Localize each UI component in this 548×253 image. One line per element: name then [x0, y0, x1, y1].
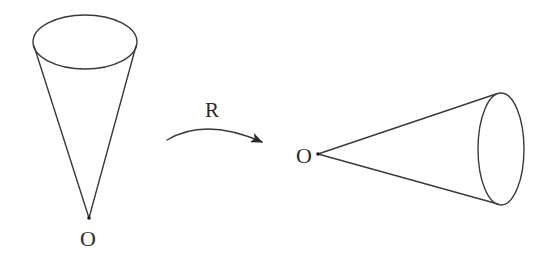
left-cone: O: [33, 15, 137, 251]
left-cone-base-ellipse: [33, 15, 137, 69]
left-cone-left-side: [34, 46, 89, 218]
rotation-diagram: O R O: [0, 0, 548, 253]
right-cone-base-ellipse: [478, 93, 524, 205]
rotation-arrow: R: [167, 98, 262, 142]
left-cone-right-side: [89, 46, 136, 218]
right-cone: O: [296, 93, 524, 205]
left-cone-apex-label: O: [80, 226, 96, 251]
right-cone-apex-dot: [316, 152, 320, 156]
rotation-label: R: [205, 98, 219, 122]
left-cone-apex-dot: [87, 216, 91, 220]
rotation-arc: [167, 129, 262, 142]
right-cone-bottom-side: [318, 154, 498, 204]
diagram-canvas: O R O: [0, 0, 548, 253]
right-cone-apex-label: O: [296, 143, 312, 168]
right-cone-top-side: [318, 94, 496, 154]
